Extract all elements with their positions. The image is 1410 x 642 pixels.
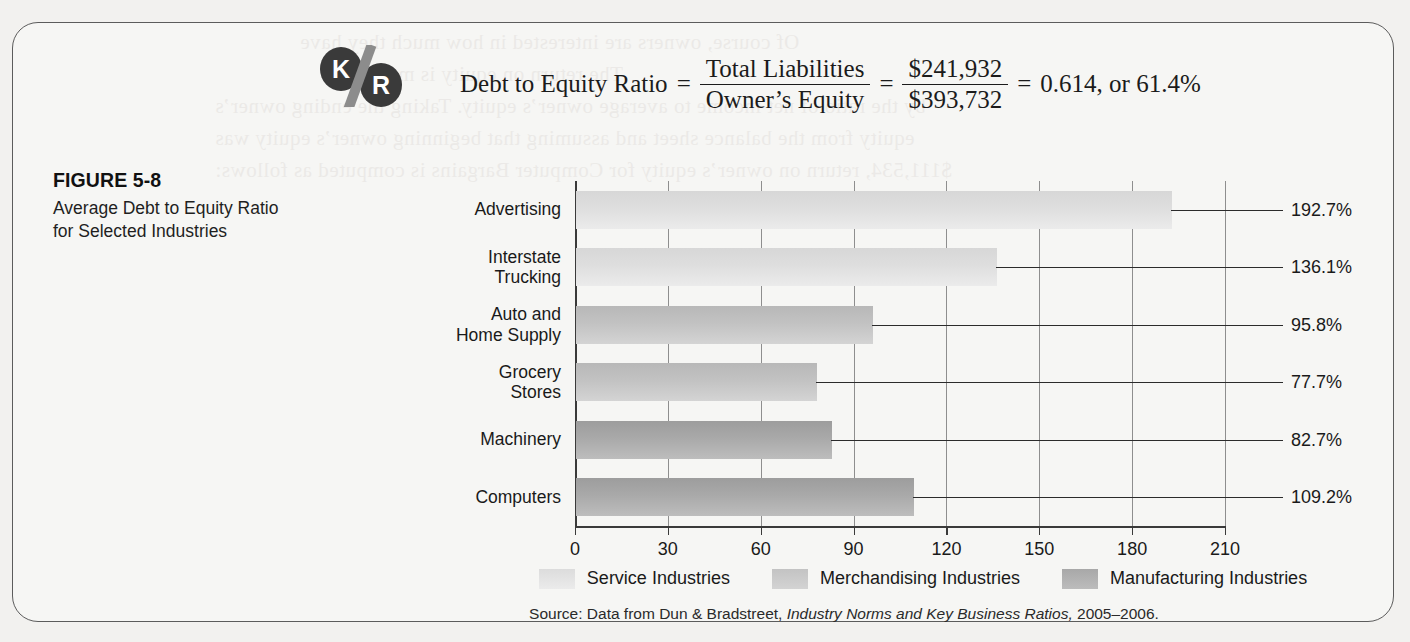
leader-line — [831, 440, 1283, 441]
leader-line — [996, 267, 1283, 268]
x-tick-120 — [946, 526, 947, 535]
source-suffix: 2005–2006. — [1073, 605, 1159, 622]
legend-label: Service Industries — [587, 568, 730, 589]
legend-label: Manufacturing Industries — [1110, 568, 1307, 589]
category-label-line: Grocery — [325, 362, 561, 383]
bar-service[interactable] — [576, 248, 997, 286]
x-tick-label-30: 30 — [658, 539, 678, 560]
bar-manuf[interactable] — [576, 421, 832, 459]
leader-line — [816, 382, 1284, 383]
x-tick-label-180: 180 — [1117, 539, 1147, 560]
formula-op-2: = — [877, 70, 895, 98]
category-label: GroceryStores — [325, 362, 575, 403]
formula-op-1: = — [675, 70, 693, 98]
legend-swatch-service — [539, 569, 575, 589]
category-label-line: Computers — [325, 487, 561, 508]
source-prefix: Source: Data from Dun & Bradstreet, — [529, 605, 787, 622]
x-tick-60 — [761, 526, 762, 535]
value-label: 192.7% — [1291, 199, 1352, 220]
value-label: 136.1% — [1291, 257, 1352, 278]
bar-merch[interactable] — [576, 306, 873, 344]
bar-row: Advertising192.7% — [575, 181, 1225, 239]
category-label-line: Advertising — [325, 199, 561, 220]
bar-chart: Advertising192.7%InterstateTrucking136.1… — [313, 173, 1375, 613]
x-tick-180 — [1132, 526, 1133, 535]
value-label: 82.7% — [1291, 429, 1342, 450]
category-label: Machinery — [325, 429, 575, 450]
formula-numerator-2: $241,932 — [902, 55, 1008, 84]
formula-numerator-1: Total Liabilities — [700, 55, 871, 84]
category-label: InterstateTrucking — [325, 247, 575, 288]
x-tick-90 — [854, 526, 855, 535]
category-label-line: Interstate — [325, 247, 561, 268]
category-label: Computers — [325, 487, 575, 508]
bar-row: GroceryStores77.7% — [575, 354, 1225, 412]
legend-item[interactable]: Service Industries — [539, 568, 730, 589]
value-label: 95.8% — [1291, 314, 1342, 335]
bar-row: Computers109.2% — [575, 469, 1225, 527]
category-label-line: Stores — [325, 382, 561, 403]
value-label: 77.7% — [1291, 372, 1342, 393]
x-tick-label-0: 0 — [570, 539, 580, 560]
legend-item[interactable]: Merchandising Industries — [772, 568, 1020, 589]
x-tick-label-120: 120 — [931, 539, 961, 560]
bar-row: Auto andHome Supply95.8% — [575, 296, 1225, 354]
category-label-line: Auto and — [325, 304, 561, 325]
bar-merch[interactable] — [576, 363, 817, 401]
source-note: Source: Data from Dun & Bradstreet, Indu… — [313, 605, 1375, 623]
x-tick-label-60: 60 — [751, 539, 771, 560]
x-axis — [575, 526, 1225, 528]
category-label-line: Trucking — [325, 267, 561, 288]
bar-service[interactable] — [576, 191, 1172, 229]
source-italic-title: Industry Norms and Key Business Ratios, — [787, 605, 1073, 622]
legend-item[interactable]: Manufacturing Industries — [1062, 568, 1307, 589]
bar-row: InterstateTrucking136.1% — [575, 239, 1225, 297]
x-tick-210 — [1225, 526, 1226, 535]
category-label-line: Home Supply — [325, 325, 561, 346]
formula-denominator-2: $393,732 — [902, 84, 1008, 114]
figure-caption: FIGURE 5-8 Average Debt to Equity Ratio … — [53, 169, 305, 243]
formula-op-3: = — [1015, 70, 1033, 98]
debt-to-equity-formula: Debt to Equity Ratio = Total Liabilities… — [460, 55, 1201, 114]
x-tick-150 — [1039, 526, 1040, 535]
formula-denominator-1: Owner’s Equity — [700, 84, 871, 114]
figure-box: K R Debt to Equity Ratio = Total Liabili… — [12, 22, 1394, 622]
leader-line — [872, 325, 1283, 326]
formula-fraction-1: Total Liabilities Owner’s Equity — [700, 55, 871, 114]
x-tick-label-210: 210 — [1210, 539, 1240, 560]
bar-manuf[interactable] — [576, 478, 914, 516]
value-label: 109.2% — [1291, 487, 1352, 508]
x-tick-label-150: 150 — [1024, 539, 1054, 560]
bar-rows: Advertising192.7%InterstateTrucking136.1… — [575, 181, 1225, 526]
leader-line — [913, 497, 1283, 498]
figure-title: Average Debt to Equity Ratio for Selecte… — [53, 197, 305, 243]
x-tick-30 — [668, 526, 669, 535]
legend-swatch-merch — [772, 569, 808, 589]
formula-row: Debt to Equity Ratio = Total Liabilities… — [13, 41, 1393, 127]
legend-label: Merchandising Industries — [820, 568, 1020, 589]
figure-number: FIGURE 5-8 — [53, 169, 305, 192]
figure-title-line-2: for Selected Industries — [53, 220, 305, 243]
category-label-line: Machinery — [325, 429, 561, 450]
legend-swatch-manuf — [1062, 569, 1098, 589]
plot-area: Advertising192.7%InterstateTrucking136.1… — [575, 181, 1225, 526]
x-tick-0 — [575, 526, 576, 535]
leader-line — [1171, 210, 1283, 211]
x-tick-label-90: 90 — [844, 539, 864, 560]
formula-result: 0.614, or 61.4% — [1040, 70, 1200, 98]
chart-legend: Service IndustriesMerchandising Industri… — [473, 568, 1373, 589]
bar-row: Machinery82.7% — [575, 411, 1225, 469]
figure-title-line-1: Average Debt to Equity Ratio — [53, 197, 305, 220]
category-label: Advertising — [325, 199, 575, 220]
formula-fraction-2: $241,932 $393,732 — [902, 55, 1008, 114]
formula-label: Debt to Equity Ratio — [460, 70, 668, 98]
category-label: Auto andHome Supply — [325, 304, 575, 345]
gridline-210 — [1225, 181, 1226, 526]
